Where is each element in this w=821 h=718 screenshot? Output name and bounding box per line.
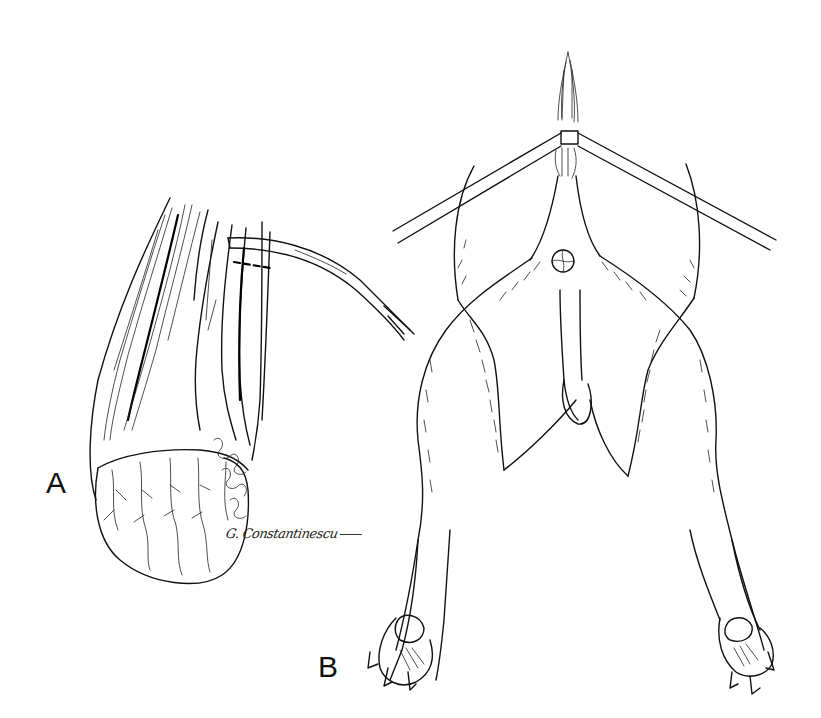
illustration-figure: A B G. Constantinescu <box>0 0 821 718</box>
forceps-instrument <box>228 238 414 340</box>
skin-hatching <box>104 205 200 440</box>
scrotum <box>560 290 591 424</box>
anus <box>552 250 574 272</box>
restraint-cords <box>393 133 776 250</box>
tail-tuft <box>558 52 578 122</box>
tail-tie <box>561 131 578 144</box>
panel-b-drawing <box>368 52 776 694</box>
line-art-drawing <box>0 0 821 718</box>
left-paw <box>368 615 432 690</box>
right-paw <box>719 618 774 694</box>
artist-signature: G. Constantinescu <box>225 526 363 541</box>
panel-label-a: A <box>46 468 66 498</box>
fur-hatching <box>424 240 714 492</box>
panel-label-b: B <box>318 652 338 682</box>
testis <box>96 438 249 583</box>
